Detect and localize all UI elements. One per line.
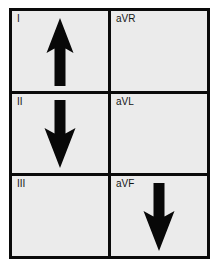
lead-label-aVR: aVR (116, 13, 135, 25)
lead-cell-aVF: aVF (111, 176, 207, 256)
lead-grid: I aVR II aVL III (9, 8, 210, 259)
arrow-up-icon (40, 18, 80, 86)
lead-cell-aVL: aVL (111, 94, 207, 174)
lead-cell-I: I (12, 11, 108, 91)
arrow-container-II (12, 94, 108, 174)
lead-cell-II: II (12, 94, 108, 174)
arrow-container-I (12, 11, 108, 91)
arrow-down-icon (139, 183, 179, 251)
arrow-down-icon (40, 100, 80, 168)
lead-cell-aVR: aVR (111, 11, 207, 91)
lead-cell-III: III (12, 176, 108, 256)
lead-label-aVL: aVL (116, 96, 134, 108)
ecg-lead-axis-figure: I aVR II aVL III (0, 0, 219, 267)
arrow-container-aVF (111, 176, 207, 256)
lead-label-III: III (17, 178, 25, 190)
